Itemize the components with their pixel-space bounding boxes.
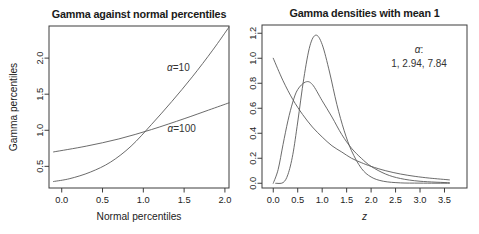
- gamma-percentiles-figure: 0.00.51.01.52.00.51.01.52.0Gamma against…: [0, 0, 479, 234]
- x-tick-label: 0.5: [96, 195, 109, 205]
- y-tick-label: 2.0: [35, 52, 45, 65]
- charts-canvas: 0.00.51.01.52.00.51.01.52.0Gamma against…: [0, 0, 479, 234]
- y-tick-label: 1.2: [248, 27, 258, 40]
- x-axis-label: z: [361, 211, 367, 222]
- x-tick-label: 1.5: [340, 195, 353, 205]
- x-tick-label: 0.5: [291, 195, 304, 205]
- y-axis-label: Gamma percentiles: [8, 63, 19, 151]
- plot-title: Gamma densities with mean 1: [289, 7, 439, 19]
- x-tick-label: 2.0: [365, 195, 378, 205]
- x-tick-label: 1.0: [316, 195, 329, 205]
- y-tick-label: 1.0: [35, 124, 45, 137]
- plot-title: Gamma against normal percentiles: [52, 8, 227, 20]
- y-tick-label: 0.6: [248, 102, 258, 115]
- curve-label-alpha-10: α=10: [167, 62, 190, 73]
- curve-label-alpha-100: α=100: [168, 123, 197, 134]
- x-tick-label: 1.5: [178, 195, 191, 205]
- x-axis-label: Normal percentiles: [97, 211, 182, 222]
- y-tick-label: 1.5: [35, 88, 45, 101]
- x-tick-label: 0.0: [267, 195, 280, 205]
- y-tick-label: 0.4: [248, 127, 258, 140]
- y-tick-label: 0.2: [248, 152, 258, 165]
- y-tick-label: 0.8: [248, 77, 258, 90]
- figure-background: [0, 0, 479, 234]
- legend-text-0: α:: [415, 44, 423, 55]
- y-tick-label: 1.0: [248, 52, 258, 65]
- legend-text-1: 1, 2.94, 7.84: [391, 58, 447, 69]
- y-tick-label: 0.5: [35, 160, 45, 173]
- x-tick-label: 2.5: [389, 195, 402, 205]
- x-tick-label: 3.5: [438, 195, 451, 205]
- x-tick-label: 0.0: [55, 195, 68, 205]
- x-tick-label: 3.0: [414, 195, 427, 205]
- x-tick-label: 1.0: [137, 195, 150, 205]
- y-tick-label: 0.0: [248, 177, 258, 190]
- x-tick-label: 2.0: [218, 195, 231, 205]
